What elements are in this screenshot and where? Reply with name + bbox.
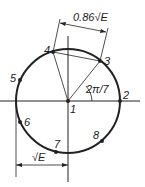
arrow-icon [62,163,68,167]
label-5: 5 [10,73,16,84]
label-4: 4 [44,45,50,56]
label-2: 2 [123,90,129,101]
ext-line-4 [53,19,60,52]
label-7: 7 [54,139,60,150]
arrow-icon [60,22,66,26]
radius-label: √E [32,152,45,163]
point-2 [118,99,122,103]
arrow-icon [100,29,106,33]
arrow-icon [16,163,22,167]
label-8: 8 [93,130,99,141]
chord-label: 0.86√E [73,12,108,23]
chord-dimension-line [60,23,106,32]
angle-label: 2π/7 [86,84,109,95]
point-6 [18,120,22,124]
point-3 [98,59,102,63]
point-5 [18,78,22,82]
point-8 [100,139,104,143]
label-3: 3 [104,56,110,67]
point-4 [51,50,55,54]
radius-to-3 [68,61,100,101]
label-6: 6 [24,117,30,128]
label-1: 1 [70,104,76,115]
radius-to-4 [53,52,68,101]
point-7 [54,150,58,154]
